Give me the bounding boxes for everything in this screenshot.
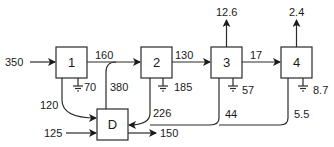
node-D: D: [97, 109, 128, 140]
label-D-out: 150: [160, 127, 178, 139]
flow-diagram: 350 1 160 70 120 380 125 D 150: [0, 0, 334, 147]
label-ground-1: 70: [84, 81, 96, 93]
label-3-to-4: 17: [250, 49, 262, 61]
label-1-to-2: 160: [95, 49, 113, 61]
node-3-label: 3: [223, 55, 230, 70]
label-ground-3: 57: [242, 84, 254, 96]
label-2-to-3: 130: [175, 49, 193, 61]
node-D-label: D: [108, 117, 117, 132]
label-3-up: 12.6: [216, 6, 237, 18]
ground-icon-4: [298, 78, 308, 91]
label-4-up: 2.4: [289, 6, 304, 18]
label-ground-4: 8.7: [313, 84, 328, 96]
label-in-1: 350: [5, 56, 23, 68]
node-1-label: 1: [68, 55, 75, 70]
label-4-to-D: 5.5: [294, 108, 309, 120]
node-2: 2: [141, 47, 172, 78]
node-4: 4: [281, 47, 312, 78]
node-3: 3: [211, 47, 242, 78]
label-in-D: 125: [44, 127, 62, 139]
node-4-label: 4: [293, 55, 300, 70]
ground-icon-2: [158, 78, 168, 91]
node-2-label: 2: [153, 55, 160, 70]
label-ground-2: 185: [174, 81, 192, 93]
ground-icon-3: [228, 78, 238, 91]
label-2-to-D: 226: [153, 107, 171, 119]
label-D-to-2: 380: [110, 81, 128, 93]
label-3-to-D: 44: [225, 108, 237, 120]
edge-2-to-D: [129, 78, 150, 125]
label-1-to-D: 120: [40, 99, 58, 111]
ground-icon-1: [73, 78, 83, 91]
node-1: 1: [56, 47, 87, 78]
